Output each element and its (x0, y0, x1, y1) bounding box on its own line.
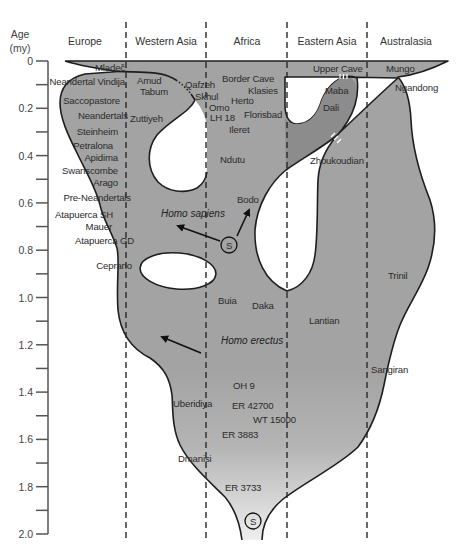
site-label: Daka (252, 300, 275, 311)
tick-label: 2.0 (18, 528, 33, 540)
site-label: Ndutu (220, 154, 245, 165)
tick-label: 0.4 (18, 150, 33, 162)
site-label: Atapuerca GD (75, 235, 134, 246)
site-label: ER 3883 (222, 429, 258, 440)
header-australasia: Australasia (380, 35, 432, 47)
tick-label: 1.8 (18, 481, 33, 493)
axis-title-unit: (my) (10, 42, 31, 54)
tick-label: 0.8 (18, 244, 33, 256)
site-label: Maba (325, 85, 349, 96)
site-label: Neandertals (78, 110, 128, 121)
site-label: Border Cave (222, 73, 274, 84)
site-label: Atapuerca SH (55, 209, 113, 220)
site-label: Petralona (73, 140, 114, 151)
header-europe: Europe (68, 35, 102, 47)
site-label: Herto (231, 95, 254, 106)
site-label: Bodo (237, 194, 259, 205)
site-label: Sangiran (371, 364, 408, 375)
header-eastern-asia: Eastern Asia (298, 35, 357, 47)
site-label: Mungo (386, 63, 415, 74)
site-label: Trinil (388, 270, 408, 281)
site-label: Ileret (229, 124, 250, 135)
site-label: Zuttiyeh (130, 113, 163, 124)
axis-title-age: Age (11, 28, 30, 40)
axis-ticks (36, 61, 48, 534)
site-label: Amud (137, 75, 161, 86)
site-label: Dali (323, 102, 339, 113)
site-label: Saccopastore (63, 95, 120, 106)
tick-label: 1.2 (18, 339, 33, 351)
region-headers: Europe Western Asia Africa Eastern Asia … (68, 35, 432, 47)
site-label: Skhul (195, 91, 218, 102)
site-label: Mauer (86, 221, 113, 232)
tick-label: 1.4 (18, 386, 33, 398)
site-label: Uberidiya (173, 398, 213, 409)
species-label-homo-erectus: Homo erectus (221, 335, 283, 346)
species-label-homo-sapiens: Homo sapiens (161, 208, 225, 219)
site-label: OH 9 (233, 380, 255, 391)
axis-tick-labels: 0 0.2 0.4 0.6 0.8 1.0 1.2 1.4 1.6 1.8 2.… (18, 55, 33, 540)
hominin-evolution-diagram: Europe Western Asia Africa Eastern Asia … (0, 0, 466, 556)
site-label: Mladeč (95, 62, 125, 73)
speciation-letter: S (250, 516, 256, 527)
site-label: Florisbad (244, 109, 282, 120)
header-western-asia: Western Asia (135, 35, 197, 47)
site-label: Ceprano (96, 260, 132, 271)
site-label: Pre-Neandertals (63, 192, 131, 203)
site-label: Ngandong (395, 82, 438, 93)
site-label: Lantian (309, 315, 339, 326)
tick-label: 0 (27, 55, 33, 67)
header-africa: Africa (234, 35, 261, 47)
tick-label: 0.6 (18, 197, 33, 209)
site-label: Apidima (84, 152, 118, 163)
site-label: Tabum (140, 86, 168, 97)
site-label: Zhoukoudian (310, 155, 364, 166)
site-label: Steinheim (77, 126, 118, 137)
site-label: Swanscombe (62, 165, 118, 176)
site-label: ER 3733 (225, 482, 261, 493)
site-label: WT 15000 (253, 414, 296, 425)
site-label: Qafzeh (185, 79, 215, 90)
site-label: Buia (218, 295, 237, 306)
tick-label: 1.6 (18, 433, 33, 445)
age-axis: Age (my) 0 0.2 (10, 28, 49, 540)
site-label: Arago (93, 177, 118, 188)
tick-label: 1.0 (18, 292, 33, 304)
site-label: Dmanisi (178, 453, 212, 464)
site-label: LH 18 (210, 112, 235, 123)
speciation-letter: S (226, 240, 232, 251)
tick-label: 0.2 (18, 102, 33, 114)
site-label: Upper Cave (313, 63, 363, 74)
site-label: ER 42700 (232, 400, 273, 411)
site-label: Neandertal Vindija (49, 76, 125, 87)
